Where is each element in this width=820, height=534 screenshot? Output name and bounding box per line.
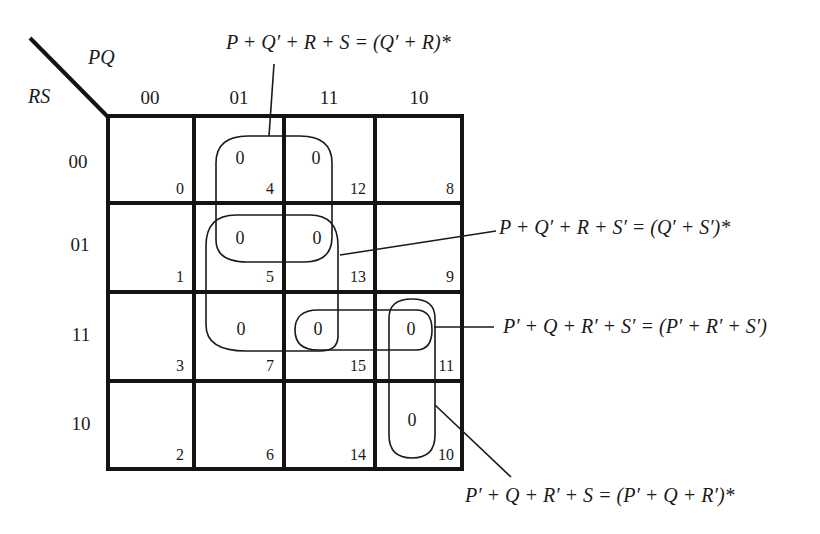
cell-index: 6 [266,446,274,463]
cell-value: 0 [314,319,323,339]
col-header-11: 11 [320,87,338,108]
col-var-label: PQ [87,46,115,68]
col-header-01: 01 [230,87,249,108]
annotation-right-upper: P + Q′ + R + S′ = (Q′ + S′)* [498,216,730,239]
annotation-top: P + Q′ + R + S = (Q′ + R)* [225,31,451,54]
leader-line-bottom [435,405,511,477]
cell-index: 4 [266,180,274,197]
cell-index: 7 [266,357,274,374]
cell-index: 2 [176,446,184,463]
cell-value: 0 [408,410,417,430]
annotation-bottom: P′ + Q + R′ + S = (P′ + Q + R′)* [464,484,735,507]
cell-index: 12 [350,180,366,197]
leader-line-top [269,64,274,136]
cell-index: 9 [446,268,454,285]
cell-index: 15 [350,357,366,374]
cell-index: 1 [176,268,184,285]
karnaugh-map-diagram: PQ RS 00 01 11 10 00 01 11 10 0 4 12 8 1… [0,0,820,534]
cell-index: 8 [446,180,454,197]
cell-value: 0 [313,228,322,248]
annotation-right-middle: P′ + Q + R′ + S′ = (P′ + R′ + S′) [502,315,767,338]
cell-index: 13 [350,268,366,285]
cell-index: 11 [439,357,454,374]
row-header-00: 00 [69,151,88,172]
cell-index: 3 [176,357,184,374]
cell-index: 5 [266,268,274,285]
cell-value: 0 [237,319,246,339]
cell-index: 14 [350,446,366,463]
leader-line-right-upper [340,231,496,255]
cell-value: 0 [236,228,245,248]
col-header-10: 10 [410,87,429,108]
cell-index: 0 [176,180,184,197]
cell-value: 0 [236,148,245,168]
row-var-label: RS [27,85,50,107]
cell-value: 0 [312,148,321,168]
row-header-11: 11 [72,324,90,345]
row-header-01: 01 [71,234,90,255]
cell-index: 10 [438,446,454,463]
col-header-00: 00 [141,87,160,108]
row-header-10: 10 [72,413,91,434]
cell-value: 0 [407,319,416,339]
